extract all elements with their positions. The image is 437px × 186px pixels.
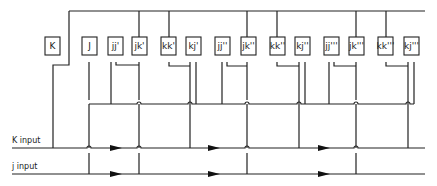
register-box: kj''' <box>404 37 419 55</box>
circuit-diagram: KJjj'jk'kk'kj'jj''jk''kk''kj''jj'''jk'''… <box>0 0 437 186</box>
box-label: kj''' <box>404 41 419 51</box>
box-label: jj'' <box>217 41 228 51</box>
arrow-icons <box>110 145 330 177</box>
box-label: J <box>87 41 91 51</box>
register-box: jj''' <box>324 37 339 55</box>
register-box: jk'' <box>241 37 256 55</box>
register-box: kk'' <box>270 37 285 55</box>
box-label: kj'' <box>296 41 309 51</box>
box-label: jj' <box>111 41 119 51</box>
register-box: kk' <box>161 37 176 55</box>
register-box: jj'' <box>215 37 230 55</box>
jj3-line <box>329 62 356 104</box>
kj1-line <box>190 62 196 148</box>
k-feed-line <box>53 11 69 148</box>
jj2-line <box>222 62 247 104</box>
kj3-line <box>408 62 414 148</box>
register-box: jk''' <box>348 37 364 55</box>
register-box: K <box>45 37 60 55</box>
jj1-line <box>111 62 139 104</box>
register-box: kk''' <box>377 37 395 55</box>
register-box: jk' <box>132 37 147 55</box>
box-label: jk' <box>133 41 144 51</box>
register-box: kj' <box>186 37 201 55</box>
box-label: kk''' <box>377 41 395 51</box>
box-label: kj' <box>188 41 198 51</box>
register-boxes: KJjj'jk'kk'kj'jj''jk''kk''kj''jj'''jk'''… <box>45 37 419 55</box>
diagram-root: KJjj'jk'kk'kj'jj''jk''kk''kj''jj'''jk'''… <box>0 0 437 186</box>
kj2-line <box>299 62 305 148</box>
box-label: kk'' <box>270 41 285 51</box>
j-input-label: j input <box>11 162 37 171</box>
register-box: J <box>82 37 97 55</box>
register-box: jj' <box>108 37 123 55</box>
box-label: kk' <box>162 41 175 51</box>
middle-bus-line <box>89 102 414 104</box>
box-label: jk'' <box>241 41 255 51</box>
register-box: kj'' <box>295 37 310 55</box>
box-label: jk''' <box>348 41 364 51</box>
box-label: jj''' <box>324 41 337 51</box>
k-input-label: K input <box>12 136 40 145</box>
